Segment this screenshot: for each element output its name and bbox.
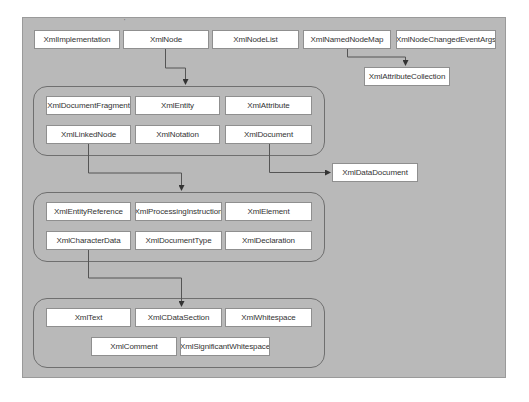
node-xmldocumentfragment: XmlDocumentFragment <box>46 96 131 115</box>
node-xmlcharacterdata: XmlCharacterData <box>46 231 131 250</box>
node-xmlelement: XmlElement <box>225 202 312 221</box>
node-xmldeclaration: XmlDeclaration <box>225 231 312 250</box>
node-xmlprocessinginstruction: XmlProcessingInstruction <box>135 202 222 221</box>
node-xmlcomment: XmlComment <box>91 337 177 356</box>
node-xmlentityreference: XmlEntityReference <box>46 202 131 221</box>
node-xmlnamednodemap: XmlNamedNodeMap <box>303 30 391 49</box>
node-xmlattributecollection: XmlAttributeCollection <box>364 67 450 86</box>
node-xmldocument: XmlDocument <box>225 125 312 144</box>
node-xmldatadocument: XmlDataDocument <box>332 163 418 182</box>
node-xmldocumenttype: XmlDocumentType <box>135 231 222 250</box>
node-xmlnodelist: XmlNodeList <box>212 30 299 49</box>
node-xmlnotation: XmlNotation <box>135 125 220 144</box>
node-xmlcdatasection: XmlCDataSection <box>135 308 222 327</box>
node-xmlwhitespace: XmlWhitespace <box>225 308 312 327</box>
node-xmlnodechangedeventargs: XmlNodeChangedEventArgs <box>396 30 496 49</box>
node-xmlentity: XmlEntity <box>135 96 220 115</box>
node-xmltext: XmlText <box>46 308 131 327</box>
node-xmlnode: XmlNode <box>123 30 209 49</box>
small-mark: ' <box>124 18 125 24</box>
node-xmlattribute: XmlAttribute <box>225 96 312 115</box>
node-xmlsignificantwhitespace: XmlSignificantWhitespace <box>180 337 270 356</box>
node-xmllinkednode: XmlLinkedNode <box>46 125 131 144</box>
node-xmlimplementation: XmlImplementation <box>34 30 120 49</box>
